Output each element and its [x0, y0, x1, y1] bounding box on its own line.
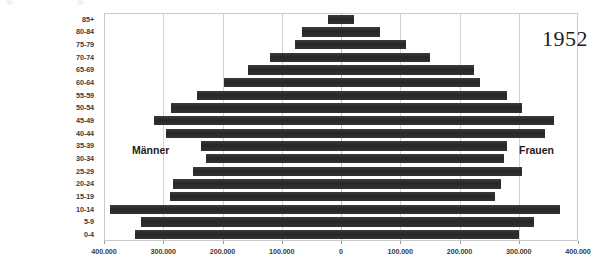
x-axis-tick — [163, 241, 164, 244]
y-axis-label-35-39: 35-39 — [76, 142, 94, 149]
y-axis-label-45-49: 45-49 — [76, 117, 94, 124]
x-axis-tick — [223, 241, 224, 244]
crop-artifact-right — [77, 0, 84, 5]
gridline — [400, 14, 401, 240]
plot-area — [104, 13, 578, 241]
x-axis-tick-label: 200.000 — [447, 247, 472, 256]
y-axis-label-25-29: 25-29 — [76, 168, 94, 175]
year-label: 1952 — [542, 26, 588, 52]
population-pyramid-chart: 0-45-910-1415-1920-2425-2930-3435-3940-4… — [0, 0, 606, 269]
x-axis-tick — [578, 241, 579, 244]
y-axis-label-70-74: 70-74 — [76, 54, 94, 61]
x-axis-tick — [400, 241, 401, 244]
x-axis-tick-label: 300.000 — [506, 247, 531, 256]
x-axis-tick — [341, 241, 342, 244]
gridline-zero — [341, 14, 342, 240]
x-axis-tick-label: 0 — [339, 247, 343, 256]
y-axis-label-80-84: 80-84 — [76, 28, 94, 35]
x-axis-tick — [519, 241, 520, 244]
x-axis-tick-label: 100.000 — [269, 247, 294, 256]
y-axis-label-75-79: 75-79 — [76, 41, 94, 48]
x-axis-tick — [104, 241, 105, 244]
y-axis-label-5-9: 5-9 — [84, 218, 94, 225]
y-axis-label-10-14: 10-14 — [76, 206, 94, 213]
legend-label-frauen: Frauen — [519, 144, 554, 156]
gridline — [282, 14, 283, 240]
y-axis-label-60-64: 60-64 — [76, 79, 94, 86]
legend-label-maenner: Männer — [132, 144, 169, 156]
gridline — [460, 14, 461, 240]
y-axis-label-85+: 85+ — [82, 16, 94, 23]
x-axis-tick — [282, 241, 283, 244]
y-axis-label-50-54: 50-54 — [76, 104, 94, 111]
x-axis-tick-label: 400.000 — [565, 247, 590, 256]
y-axis-label-65-69: 65-69 — [76, 66, 94, 73]
x-axis-tick-label: 300.000 — [151, 247, 176, 256]
y-axis-label-0-4: 0-4 — [84, 231, 94, 238]
y-axis-label-30-34: 30-34 — [76, 155, 94, 162]
y-axis-label-40-44: 40-44 — [76, 130, 94, 137]
x-axis-tick — [460, 241, 461, 244]
x-axis-tick-label: 100.000 — [388, 247, 413, 256]
gridline — [163, 14, 164, 240]
y-axis-label-55-59: 55-59 — [76, 92, 94, 99]
gridline — [519, 14, 520, 240]
x-axis: 400.000300.000200.000100.0000100.000200.… — [104, 241, 578, 267]
y-axis-label-15-19: 15-19 — [76, 193, 94, 200]
x-axis-tick-label: 400.000 — [91, 247, 116, 256]
x-axis-tick-label: 200.000 — [210, 247, 235, 256]
gridline — [223, 14, 224, 240]
y-axis-category-labels: 0-45-910-1415-1920-2425-2930-3435-3940-4… — [0, 13, 100, 241]
crop-artifact-left — [6, 0, 13, 5]
y-axis-label-20-24: 20-24 — [76, 180, 94, 187]
